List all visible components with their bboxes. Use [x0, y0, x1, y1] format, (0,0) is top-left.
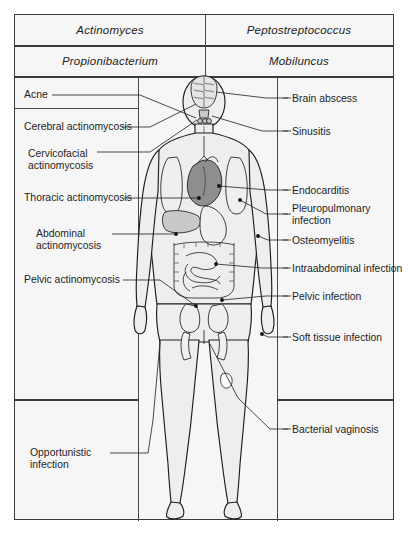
label-pelvic-actinomycosis: Pelvic actinomycosis — [24, 274, 120, 286]
label-abdominal-actinomycosis: Abdominal actinomycosis — [36, 228, 101, 253]
label-brain-abscess: Brain abscess — [292, 93, 357, 105]
header-cell-actinomyces: Actinomyces — [15, 15, 205, 45]
label-cerebral-actinomycosis: Cerebral actinomycosis — [24, 121, 132, 133]
column-divider-right — [277, 76, 278, 521]
header-cell-propionibacterium: Propionibacterium — [15, 46, 205, 76]
label-sinusitis: Sinusitis — [292, 126, 331, 138]
label-intraabdominal-infection: Intraabdominal infection — [292, 263, 402, 275]
label-bacterial-vaginosis: Bacterial vaginosis — [292, 424, 379, 436]
label-pelvic-infection: Pelvic infection — [292, 291, 361, 303]
label-acne: Acne — [24, 89, 48, 101]
header-row2-divider — [15, 76, 393, 78]
label-osteomyelitis: Osteomyelitis — [292, 235, 354, 247]
bottom-row-divider-left — [15, 399, 138, 401]
column-divider-left — [138, 76, 139, 521]
bottom-row-divider-right — [277, 399, 393, 401]
acne-row-divider — [15, 108, 138, 109]
label-soft-tissue-infection: Soft tissue infection — [292, 332, 382, 344]
label-cervicofacial-actinomycosis: Cervicofacial actinomycosis — [28, 148, 93, 173]
header-cell-mobiluncus: Mobiluncus — [205, 46, 393, 76]
label-opportunistic-infection: Opportunistic infection — [30, 447, 91, 472]
label-endocarditis: Endocarditis — [292, 185, 349, 197]
label-thoracic-actinomycosis: Thoracic actinomycosis — [24, 192, 132, 204]
header-cell-peptostreptococcus: Peptostreptococcus — [205, 15, 393, 45]
label-pleuropulmonary-infection: Pleuropulmonary infection — [292, 203, 371, 228]
